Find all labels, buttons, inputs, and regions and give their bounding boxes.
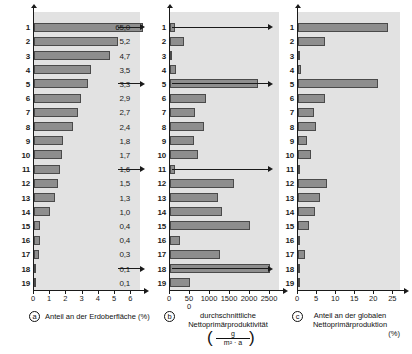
- link-b-to-c-arrow-row-5: [268, 81, 273, 87]
- value-label-a-16: 0,4: [90, 236, 130, 245]
- value-label-a-14: 1,0: [90, 208, 130, 217]
- row-label-a-7: 7: [8, 108, 30, 117]
- bar-a-16: [34, 236, 40, 245]
- row-label-b-10: 10: [144, 151, 166, 160]
- value-label-a-2: 5,2: [90, 37, 130, 46]
- value-label-a-15: 0,4: [90, 222, 130, 231]
- x-axis-arrow-c: [404, 288, 409, 294]
- row-label-b-8: 8: [144, 123, 166, 132]
- row-label-b-17: 17: [144, 250, 166, 259]
- bar-c-6: [298, 94, 325, 103]
- bar-c-5: [298, 79, 378, 88]
- bar-a-9: [34, 136, 63, 145]
- row-label-b-15: 15: [144, 222, 166, 231]
- bar-b-4: [170, 65, 176, 74]
- bar-c-16: [298, 236, 300, 245]
- row-label-a-15: 15: [8, 222, 30, 231]
- link-a-to-b-arrow-row-18: [140, 266, 145, 272]
- row-label-a-2: 2: [8, 37, 30, 46]
- bar-a-12: [34, 179, 58, 188]
- row-label-a-17: 17: [8, 250, 30, 259]
- value-label-a-1: 65,0: [90, 23, 130, 32]
- x-axis-title-b-line1: durchschnittliche: [200, 311, 256, 320]
- row-label-c-18: 18: [272, 265, 294, 274]
- x-tick-label-a-6: 6: [110, 295, 150, 303]
- link-a-to-b-row-18: [118, 268, 140, 269]
- x-axis-b: [169, 290, 283, 291]
- row-label-b-19: 19: [144, 279, 166, 288]
- bar-b-16: [170, 236, 180, 245]
- bar-b-19: [170, 278, 190, 287]
- bar-a-18: [34, 264, 36, 273]
- bar-b-3: [170, 51, 172, 60]
- link-a-to-b-row-1: [118, 27, 140, 28]
- link-b-to-c-arrow-row-11: [268, 166, 273, 172]
- x-tick-label-c-5: 25: [372, 295, 412, 303]
- bar-c-7: [298, 108, 314, 117]
- bar-c-10: [298, 150, 311, 159]
- bar-c-1: [298, 23, 388, 32]
- value-label-a-19: 0,1: [90, 279, 130, 288]
- value-label-a-7: 2,7: [90, 108, 130, 117]
- unit-paren-close-b: ): [249, 329, 255, 346]
- bar-a-13: [34, 193, 55, 202]
- bar-c-14: [298, 207, 315, 216]
- bar-b-10: [170, 150, 198, 159]
- row-label-b-9: 9: [144, 137, 166, 146]
- bar-b-15: [170, 221, 250, 230]
- row-label-c-3: 3: [272, 52, 294, 61]
- row-label-c-9: 9: [272, 137, 294, 146]
- bar-b-14: [170, 207, 222, 216]
- link-a-to-b-arrow-row-5: [140, 81, 145, 87]
- bar-b-2: [170, 37, 184, 46]
- row-label-c-2: 2: [272, 37, 294, 46]
- value-label-a-3: 4,7: [90, 52, 130, 61]
- link-b-to-c-row-1: [172, 27, 268, 28]
- y-axis-arrow-c: [295, 4, 301, 8]
- bar-a-17: [34, 250, 39, 259]
- row-label-b-11: 11: [144, 165, 166, 174]
- row-label-b-3: 3: [144, 52, 166, 61]
- bar-a-4: [34, 65, 91, 74]
- bar-c-3: [298, 51, 300, 60]
- row-label-c-7: 7: [272, 108, 294, 117]
- link-a-to-b-arrow-row-11: [140, 166, 145, 172]
- row-label-a-18: 18: [8, 265, 30, 274]
- row-label-b-7: 7: [144, 108, 166, 117]
- row-label-c-14: 14: [272, 208, 294, 217]
- row-label-a-5: 5: [8, 80, 30, 89]
- row-label-a-13: 13: [8, 194, 30, 203]
- x-axis-title-c-line1: Anteil an der globalen: [314, 311, 387, 320]
- bar-a-15: [34, 221, 40, 230]
- value-label-a-5: 3,3: [90, 80, 130, 89]
- value-label-a-6: 2,9: [90, 94, 130, 103]
- link-a-to-b-row-11: [118, 169, 140, 170]
- x-axis-arrow-a: [144, 288, 149, 294]
- row-label-a-12: 12: [8, 179, 30, 188]
- row-label-a-3: 3: [8, 52, 30, 61]
- bar-a-8: [34, 122, 73, 131]
- value-label-a-10: 1,7: [90, 151, 130, 160]
- bar-c-12: [298, 179, 327, 188]
- x-axis-arrow-b: [283, 288, 288, 294]
- row-label-a-11: 11: [8, 165, 30, 174]
- value-label-a-18: 0,1: [90, 265, 130, 274]
- row-label-a-4: 4: [8, 66, 30, 75]
- bar-c-18: [298, 264, 300, 273]
- bar-b-7: [170, 108, 195, 117]
- unit-paren-open-b: (: [207, 329, 213, 346]
- bar-c-11: [298, 165, 300, 174]
- link-b-to-c-arrow-row-18: [268, 266, 273, 272]
- row-label-c-13: 13: [272, 194, 294, 203]
- bar-c-2: [298, 37, 325, 46]
- row-label-b-14: 14: [144, 208, 166, 217]
- bar-b-12: [170, 179, 234, 188]
- bar-c-15: [298, 221, 309, 230]
- bar-c-4: [298, 65, 301, 74]
- bar-c-19: [298, 278, 300, 287]
- row-label-b-1: 1: [144, 23, 166, 32]
- panel-letter-a: a: [29, 311, 40, 322]
- row-label-a-16: 16: [8, 236, 30, 245]
- row-label-c-4: 4: [272, 66, 294, 75]
- bar-b-13: [170, 193, 218, 202]
